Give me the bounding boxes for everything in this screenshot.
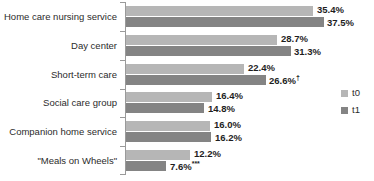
bar-t0	[126, 6, 313, 16]
category-label: Short-term care	[51, 69, 117, 80]
axis-tick	[120, 174, 125, 175]
category-label: Social care group	[43, 97, 117, 108]
value-label-t1: 37.5%	[327, 18, 354, 28]
legend-swatch-icon	[341, 90, 348, 97]
bar-t1	[126, 103, 204, 113]
value-label-t0: 16.0%	[214, 120, 241, 130]
bar-t0	[126, 64, 244, 74]
axis-tick	[120, 2, 125, 3]
category-label: "Meals on Wheels"	[37, 155, 117, 166]
bar-t0	[126, 121, 210, 131]
value-label-t1: 31.3%	[294, 47, 321, 57]
value-label-t0: 22.4%	[248, 63, 275, 73]
value-label-t1: 14.8%	[208, 104, 235, 114]
horizontal-bar-chart: Home care nursing service 35.4% 37.5% Da…	[0, 0, 374, 181]
legend-swatch-icon	[341, 107, 348, 114]
significance-mark: ***	[192, 160, 200, 167]
bar-t1	[126, 132, 211, 142]
value-label-t1-text: 16.2%	[215, 132, 242, 143]
value-label-t1-text: 26.6%	[269, 75, 296, 86]
bar-t0	[126, 92, 212, 102]
category-label: Home care nursing service	[4, 11, 117, 22]
axis-tick	[120, 117, 125, 118]
value-label-t1-text: 7.6%	[170, 161, 192, 172]
value-label-t1-text: 31.3%	[294, 46, 321, 57]
value-label-t1: 26.6%†	[269, 76, 300, 86]
axis-tick	[120, 31, 125, 32]
bar-t0	[126, 150, 190, 160]
significance-mark: †	[296, 74, 300, 81]
legend-label: t1	[352, 103, 360, 116]
axis-tick	[120, 60, 125, 61]
value-label-t0: 28.7%	[281, 34, 308, 44]
bar-t1	[126, 17, 324, 27]
value-label-t0: 35.4%	[317, 5, 344, 15]
axis-tick	[120, 89, 125, 90]
value-label-t0: 16.4%	[216, 91, 243, 101]
value-label-t1: 16.2%	[215, 133, 242, 143]
legend-label: t0	[352, 86, 360, 99]
axis-tick	[120, 146, 125, 147]
bar-t1	[126, 161, 166, 171]
category-label: Day center	[71, 40, 117, 51]
value-label-t1-text: 37.5%	[327, 17, 354, 28]
value-label-t0: 12.2%	[194, 149, 221, 159]
value-label-t1-text: 14.8%	[208, 103, 235, 114]
bar-t0	[126, 35, 277, 45]
value-label-t1: 7.6%***	[170, 162, 200, 172]
category-label: Companion home service	[9, 126, 117, 137]
bar-t1	[126, 75, 266, 85]
bar-t1	[126, 46, 291, 56]
